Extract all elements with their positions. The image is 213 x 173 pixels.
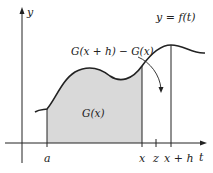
difference-arrowhead-icon <box>159 87 164 93</box>
y-axis-label: y <box>26 6 34 19</box>
t-axis-label: t <box>199 151 204 164</box>
tick-label-x: x <box>139 152 146 165</box>
tick-label-z: z <box>152 152 159 165</box>
curve-label: y = f(t) <box>155 11 196 24</box>
diagram-canvas: y t y = f(t) G(x + h) − G(x) G(x) a x z … <box>0 0 213 173</box>
difference-label: G(x + h) − G(x) <box>71 45 154 57</box>
t-axis-arrow-icon <box>200 141 207 146</box>
shaded-area-label: G(x) <box>82 107 105 119</box>
y-axis-arrow-icon <box>20 7 25 14</box>
tick-label-x-plus-h: x + h <box>164 152 194 165</box>
tick-label-a: a <box>44 152 51 165</box>
